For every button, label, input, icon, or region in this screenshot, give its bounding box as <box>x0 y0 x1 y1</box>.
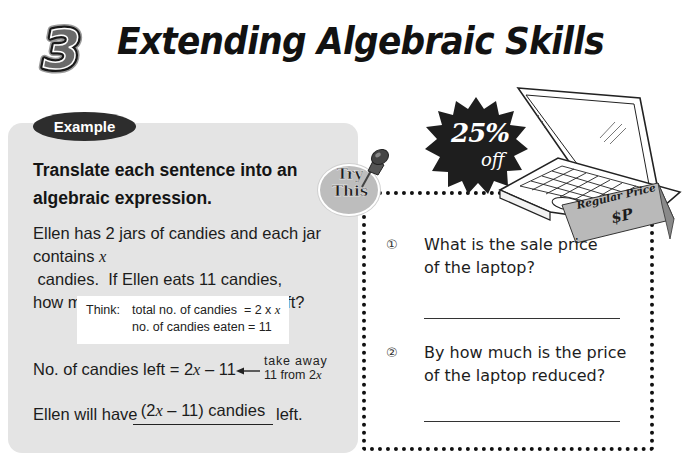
question-1-line-1: What is the sale price <box>424 235 598 254</box>
answer-prefix: Ellen will have <box>33 405 138 424</box>
variable-x: x <box>275 303 281 317</box>
question-2-text: By how much is the price of the laptop r… <box>424 341 634 387</box>
question-2-line-1: By how much is the price <box>424 343 626 362</box>
question-1-number: ① <box>386 237 398 252</box>
svg-text:3: 3 <box>43 18 81 76</box>
think-line-2: no. of candies eaten = 11 <box>132 320 272 334</box>
note-line-1: take away <box>264 354 327 368</box>
think-box: Think: total no. of candies = 2 x x no. … <box>77 296 289 344</box>
variable-x: x <box>99 247 106 266</box>
question-2-number: ② <box>386 345 398 360</box>
question-2-answer-blank[interactable] <box>424 421 620 422</box>
answer-pre: (2 <box>141 401 156 419</box>
question-1-answer-blank[interactable] <box>424 318 620 319</box>
think-line-1-text: total no. of candies = 2 x <box>132 303 275 317</box>
note-line-2-pre: 11 from 2 <box>264 368 316 382</box>
result-post: – 11 <box>200 360 235 378</box>
question-1-line-2: of the laptop? <box>424 258 535 277</box>
question-2-line-2: of the laptop reduced? <box>424 366 605 385</box>
instruction-text: Translate each sentence into an algebrai… <box>33 156 303 212</box>
answer-post: – 11) candies <box>163 401 265 419</box>
answer-blank: (2x – 11) candies <box>133 399 273 425</box>
chapter-number-icon: 3 3 3 <box>38 18 86 76</box>
problem-line-2-pre: contains <box>33 247 99 265</box>
think-line-1: total no. of candies = 2 x x <box>132 303 280 318</box>
example-badge: Example <box>33 112 136 141</box>
note-line-2: 11 from 2x <box>264 368 327 382</box>
page-title: Extending Algebraic Skills <box>117 20 604 63</box>
answer-suffix: left. <box>276 405 303 424</box>
question-1-text: What is the sale price of the laptop? <box>424 233 634 279</box>
problem-line-2-post: candies. If Ellen eats 11 candies, <box>33 270 282 288</box>
variable-x: x <box>316 368 322 382</box>
left-arrow-icon <box>236 367 260 375</box>
variable-x: x <box>155 401 162 420</box>
discount-word: off <box>481 149 505 170</box>
problem-line-1: Ellen has 2 jars of candies and each jar <box>33 224 321 242</box>
side-note: take away 11 from 2x <box>264 354 327 382</box>
result-expression: No. of candies left = 2x – 11 <box>33 360 236 380</box>
result-pre: No. of candies left = 2 <box>33 360 193 378</box>
pushpin-icon <box>356 145 390 189</box>
discount-percent: 25% <box>440 118 520 148</box>
think-label: Think: <box>86 303 120 317</box>
